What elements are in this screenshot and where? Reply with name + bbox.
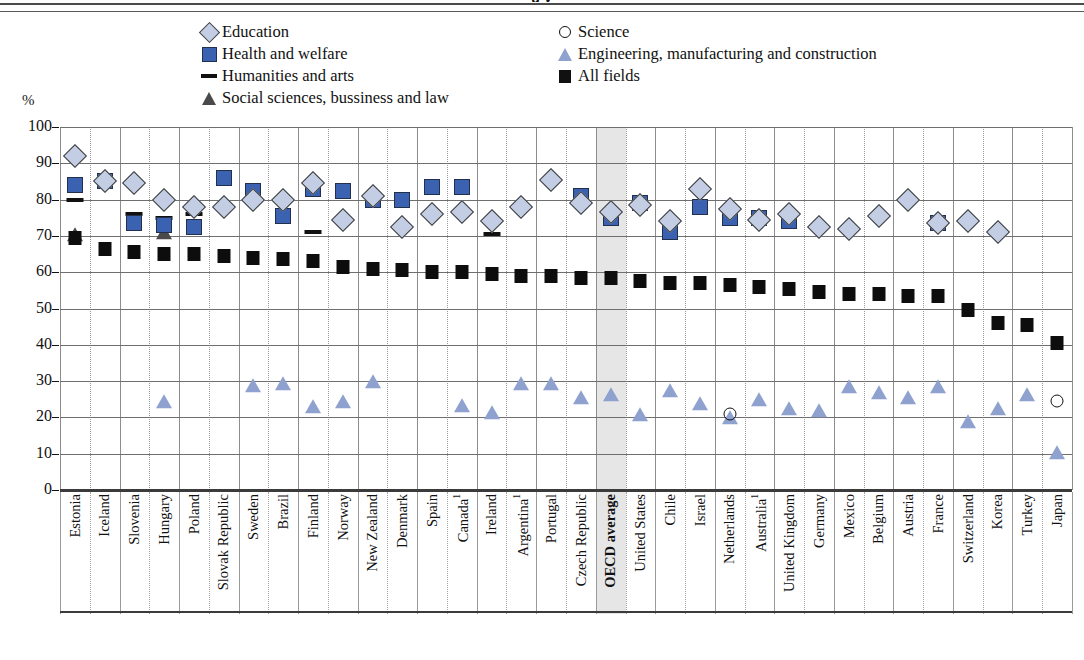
x-axis-label-argentina: Argentina1 — [506, 494, 536, 612]
x-axis-label-text: Germany — [812, 494, 827, 548]
data-point-triangle — [335, 394, 351, 408]
plot-horizontal-gridline — [60, 272, 1072, 273]
data-point-filled-square — [277, 252, 290, 266]
data-point-filled-square — [336, 260, 349, 274]
x-axis-label-text: Korea — [990, 494, 1005, 529]
legend-item-label: Humanities and arts — [222, 68, 354, 85]
data-point-filled-square — [813, 285, 826, 299]
data-point-filled-square — [693, 276, 706, 290]
data-point-triangle — [960, 414, 976, 428]
legend-item-humanities-and-arts: Humanities and arts — [196, 68, 354, 85]
x-axis-label-brazil: Brazil — [268, 494, 298, 612]
square-icon — [196, 47, 222, 62]
x-axis-label-slovak-republic: Slovak Republic — [209, 494, 239, 612]
y-axis-tick-mark — [52, 345, 59, 346]
open-circle-icon — [552, 26, 578, 38]
data-point-triangle — [365, 374, 381, 388]
data-point-triangle — [245, 378, 261, 392]
x-axis-label-czech-republic: Czech Republic — [566, 494, 596, 612]
legend-item-label: Engineering, manufacturing and construct… — [578, 46, 877, 63]
x-axis-label-text: United Kingdom — [782, 494, 797, 592]
y-axis-tick-mark — [52, 127, 59, 128]
data-point-square — [424, 179, 440, 195]
x-axis-label-text: Ireland — [484, 494, 499, 535]
x-axis-label-netherlands: Netherlands — [715, 494, 745, 612]
plot-horizontal-gridline — [60, 163, 1072, 164]
legend-item-science: Science — [552, 24, 629, 41]
data-point-filled-square — [1051, 336, 1064, 350]
legend-item-label: Education — [222, 24, 289, 41]
legend-item-education: Education — [196, 24, 289, 41]
y-axis-tick-label: 60 — [12, 263, 52, 279]
top-rule-thick — [0, 3, 1084, 5]
dash-icon — [196, 74, 222, 78]
x-axis-label-text: Slovenia — [127, 494, 142, 545]
legend-item-social-sciences-bussiness: Social sciences, bussiness and law — [196, 90, 449, 107]
data-point-triangle — [305, 400, 321, 414]
x-axis-label-text: Hungary — [157, 494, 172, 545]
x-axis-label-finland: Finland — [298, 494, 328, 612]
data-point-filled-square — [783, 282, 796, 296]
data-point-diamond — [480, 209, 504, 233]
x-axis-label-text: Portugal — [544, 494, 559, 543]
data-point-diamond — [688, 177, 712, 201]
y-axis-tick-label: 40 — [12, 336, 52, 352]
data-point-square — [335, 183, 351, 199]
legend-item-all-fields: All fields — [552, 68, 640, 85]
x-axis-label-text: Switzerland — [961, 494, 976, 563]
x-axis-label-sweden: Sweden — [239, 494, 269, 612]
data-point-triangle — [692, 396, 708, 410]
x-axis-label-turkey: Turkey — [1012, 494, 1042, 612]
x-axis-label-text: OECD average — [603, 494, 618, 588]
data-point-triangle — [543, 376, 559, 390]
x-axis-label-text: Belgium — [871, 494, 886, 544]
x-axis-label-text: Denmark — [395, 494, 410, 548]
data-point-filled-square — [991, 316, 1004, 330]
legend-item-label: Social sciences, bussiness and law — [222, 90, 449, 107]
x-axis-label-text: Spain — [425, 494, 440, 527]
data-point-square — [692, 199, 708, 215]
chart-page: g y EducationScienceHealth and welfareEn… — [0, 0, 1084, 660]
data-point-square — [216, 170, 232, 186]
data-point-filled-square — [515, 269, 528, 283]
data-point-filled-square — [128, 245, 141, 259]
data-point-diamond — [866, 204, 890, 228]
x-axis-label-text: Slovak Republic — [216, 494, 231, 590]
legend-item-label: All fields — [578, 68, 640, 85]
x-axis-label-belgium: Belgium — [864, 494, 894, 612]
x-axis-labels: EstoniaIcelandSloveniaHungaryPolandSlova… — [60, 494, 1072, 614]
x-axis-label-australia: Australia1 — [745, 494, 775, 612]
data-point-diamond — [420, 202, 444, 226]
x-axis-label-text: Estonia — [68, 494, 83, 538]
plot-horizontal-gridline — [60, 381, 1072, 382]
data-point-square — [186, 219, 202, 235]
data-point-filled-square — [98, 242, 111, 256]
data-point-square — [394, 192, 410, 208]
x-axis-label-iceland: Iceland — [90, 494, 120, 612]
y-axis-tick-label: 10 — [12, 445, 52, 461]
data-point-filled-square — [723, 278, 736, 292]
x-axis-label-germany: Germany — [804, 494, 834, 612]
x-axis-label-text: France — [931, 494, 946, 533]
x-axis-label-chile: Chile — [655, 494, 685, 612]
x-axis-label-denmark: Denmark — [387, 494, 417, 612]
diamond-icon — [196, 25, 222, 40]
data-point-filled-square — [396, 263, 409, 277]
x-axis-label-text: Australia1 — [751, 494, 768, 552]
x-axis-label-hungary: Hungary — [149, 494, 179, 612]
plot-vertical-gridline — [1072, 127, 1073, 490]
y-axis-tick-mark — [52, 236, 59, 237]
data-point-dash — [305, 230, 322, 234]
x-axis-label-text: Austria — [901, 494, 916, 537]
filled-square-icon — [552, 70, 578, 83]
data-point-filled-square — [366, 262, 379, 276]
data-point-square — [454, 179, 470, 195]
data-point-filled-square — [961, 303, 974, 317]
x-axis-column-separator — [1072, 492, 1073, 614]
data-point-diamond — [152, 188, 176, 212]
y-axis-tick-mark — [52, 272, 59, 273]
data-point-filled-square — [187, 247, 200, 261]
x-axis-label-text: Argentina1 — [513, 494, 530, 556]
data-point-square — [67, 177, 83, 193]
x-axis-label-spain: Spain — [417, 494, 447, 612]
